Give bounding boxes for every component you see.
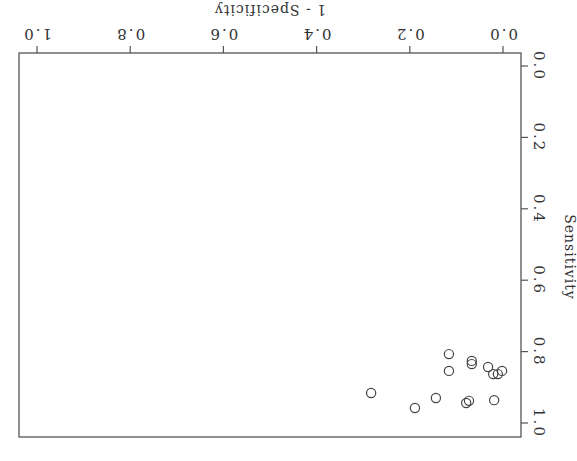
data-point-circle [444, 366, 453, 375]
y-tick-label: 0.6 [530, 265, 548, 295]
x-axis-label: 1 - Specificity [214, 2, 326, 18]
data-point-circle [444, 349, 453, 358]
data-point-circle [464, 396, 473, 405]
data-point-circle [431, 393, 440, 402]
x-tick-label: 0.8 [115, 25, 145, 43]
plot-frame [19, 53, 521, 437]
x-tick-label: 0.4 [302, 25, 332, 43]
data-point-circle [410, 403, 419, 412]
x-tick-label: 0.6 [208, 25, 238, 43]
x-tick-label: 0.2 [395, 25, 425, 43]
x-tick-label: 0.0 [488, 25, 518, 43]
y-axis-label: Sensitivity [562, 214, 577, 300]
y-tick-label: 0.8 [530, 337, 548, 367]
y-tick-label: 0.0 [530, 51, 548, 81]
y-tick-label: 0.2 [530, 122, 548, 152]
y-tick-label: 0.4 [530, 194, 548, 224]
x-tick-label: 1.0 [22, 25, 52, 43]
roc-scatter-chart: 0.00.20.40.60.81.0 0.00.20.40.60.81.0 1 … [0, 0, 577, 461]
x-axis: 0.00.20.40.60.81.0 [22, 25, 518, 53]
y-tick-label: 1.0 [530, 408, 548, 438]
data-point-circle [490, 396, 499, 405]
y-axis: 0.00.20.40.60.81.0 [521, 51, 548, 438]
data-point-circle [462, 398, 471, 407]
data-point-circle [367, 388, 376, 397]
data-points [367, 349, 507, 412]
chart-canvas: 0.00.20.40.60.81.0 0.00.20.40.60.81.0 1 … [0, 0, 577, 461]
